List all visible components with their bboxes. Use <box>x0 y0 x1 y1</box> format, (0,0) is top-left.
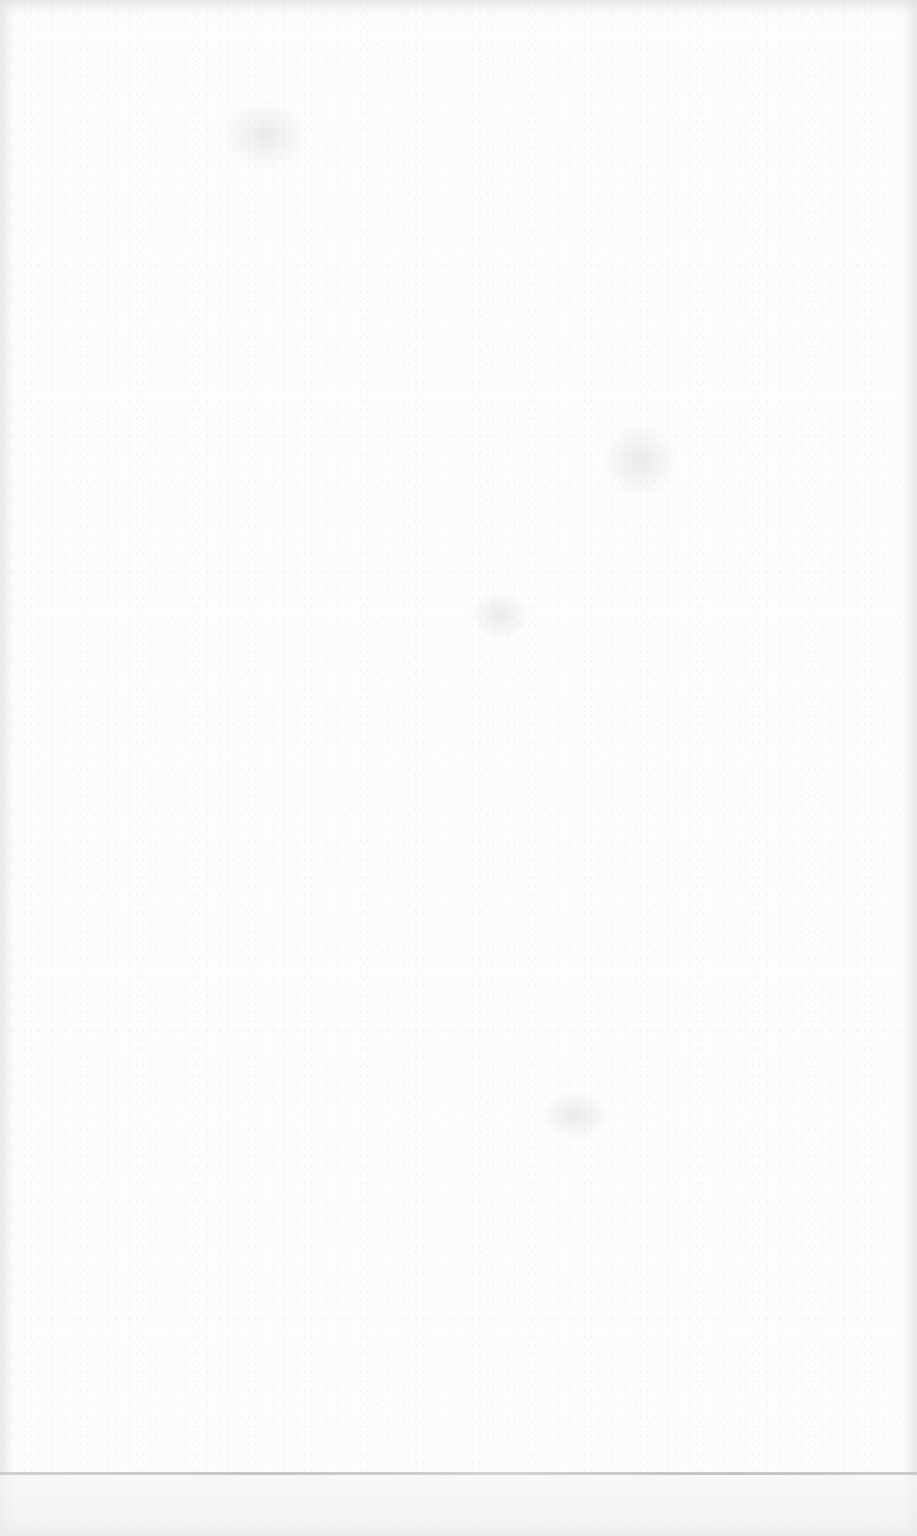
scan-speck <box>220 100 310 170</box>
scan-speck <box>600 420 680 500</box>
bottom-margin-band <box>0 1474 917 1536</box>
blank-scanned-page <box>0 0 917 1536</box>
scan-speck <box>540 1090 610 1140</box>
paper-texture <box>0 0 917 1536</box>
scan-speck <box>470 590 530 640</box>
footer-rule-line <box>0 1472 917 1475</box>
